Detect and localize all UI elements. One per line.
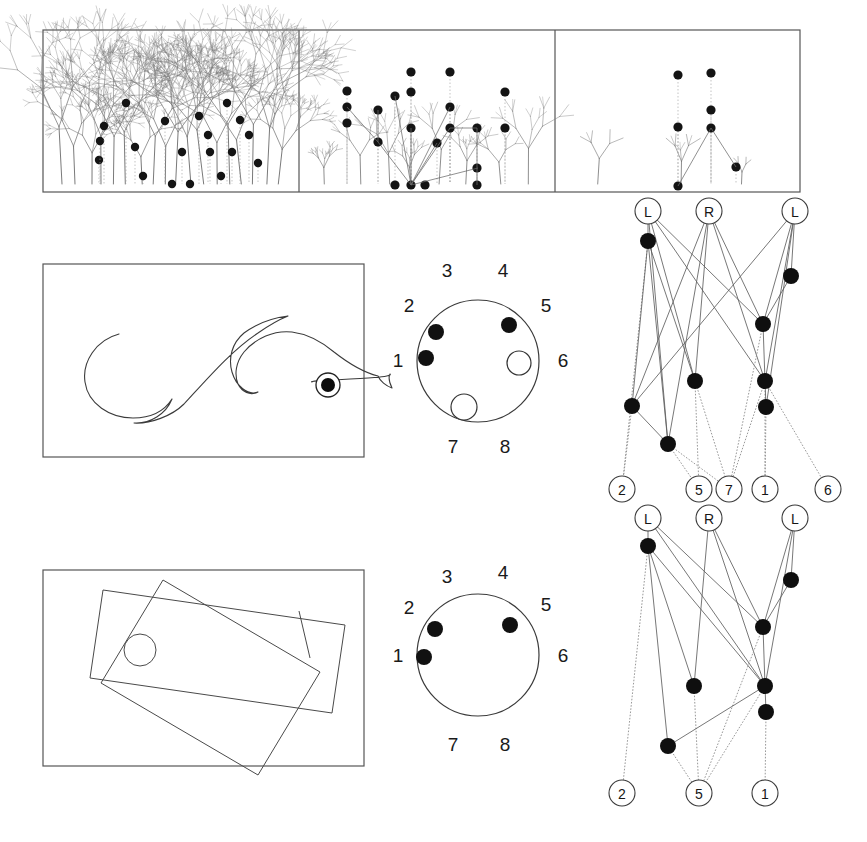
tree-branch	[324, 168, 325, 185]
sensor-top-label-2: 2	[404, 295, 415, 316]
tree-node-dot	[204, 131, 212, 139]
tree-node-dot	[245, 131, 253, 139]
tree-node-dot	[217, 172, 225, 180]
sensor-bottom-dot-filled	[416, 649, 432, 665]
net-top-hidden-node	[660, 436, 676, 452]
net-bottom-top-label-L: L	[644, 511, 652, 527]
net-top-hidden-node	[755, 316, 771, 332]
tree-branch	[113, 136, 114, 184]
net-top-top-label-L: L	[644, 204, 652, 220]
net-bottom-top-label-L: L	[791, 511, 799, 527]
net-bottom-hidden-node	[757, 678, 773, 694]
net-top-hidden-node	[757, 373, 773, 389]
sensor-top-dot-filled	[428, 324, 444, 340]
tree-node-dot	[96, 137, 104, 145]
tree-node-dot	[206, 148, 214, 156]
net-top-hidden-node	[640, 233, 656, 249]
tree-node-dot	[228, 148, 236, 156]
tree-node-dot	[390, 180, 399, 189]
tree-node-dot	[168, 180, 176, 188]
net-top-bottom-label-1: 1	[761, 482, 769, 498]
tree-node-dot	[342, 86, 351, 95]
sensor-top-label-3: 3	[442, 260, 453, 281]
net-top-hidden-node	[624, 398, 640, 414]
sensor-bottom-label-3: 3	[442, 566, 453, 587]
sensor-top-label-5: 5	[541, 295, 552, 316]
net-bottom-hidden-node	[640, 538, 656, 554]
sensor-top-label-8: 8	[500, 436, 511, 457]
tree-node-dot	[706, 68, 715, 77]
tree-node-dot	[342, 118, 351, 127]
sensor-top-label-1: 1	[393, 350, 404, 371]
net-top-bottom-label-7: 7	[725, 482, 733, 498]
tree-node-dot	[95, 156, 103, 164]
tree-node-dot	[186, 180, 194, 188]
sensor-top-label-7: 7	[448, 436, 459, 457]
net-bottom-bottom-label-2: 2	[618, 786, 626, 802]
tree-node-dot	[254, 159, 262, 167]
tree-node-dot	[406, 87, 415, 96]
sensor-top-label-6: 6	[558, 350, 569, 371]
tree-node-dot	[178, 148, 186, 156]
tree-node-dot	[673, 70, 682, 79]
tree-node-dot	[706, 105, 715, 114]
sensor-top-dot-open	[507, 351, 531, 375]
net-top-hidden-node	[783, 268, 799, 284]
sensor-bottom-dot-filled	[427, 621, 443, 637]
figure-canvas: 12345678 12345678 LRL25716 LRL251	[0, 0, 867, 842]
net-bottom-hidden-node	[758, 704, 774, 720]
target-core	[321, 378, 335, 392]
sensor-top-dot-filled	[418, 350, 434, 366]
tree-node-dot	[445, 67, 454, 76]
net-top-hidden-node	[758, 399, 774, 415]
sensor-top-dot-open	[451, 394, 477, 420]
tree-node-dot	[131, 143, 139, 151]
net-top-top-label-L: L	[791, 204, 799, 220]
net-bottom-hidden-node	[686, 678, 702, 694]
tree-branch	[742, 172, 743, 184]
net-top-bottom-label-5: 5	[695, 482, 703, 498]
sensor-top-label-4: 4	[498, 260, 509, 281]
tree-node-dot	[122, 99, 130, 107]
net-bottom-top-label-R: R	[704, 511, 714, 527]
figure-root: 12345678 12345678 LRL25716 LRL251	[0, 0, 867, 842]
tree-node-dot	[223, 99, 231, 107]
tree-node-dot	[673, 122, 682, 131]
sensor-bottom-label-7: 7	[448, 734, 459, 755]
sensor-bottom-label-5: 5	[541, 594, 552, 615]
tree-node-dot	[500, 123, 509, 132]
tree-node-dot	[161, 117, 169, 125]
tree-node-dot	[195, 112, 203, 120]
sensor-bottom-label-2: 2	[404, 597, 415, 618]
net-bottom-hidden-node	[660, 738, 676, 754]
sensor-bottom-dot-filled	[502, 617, 518, 633]
sensor-bottom-label-1: 1	[393, 645, 404, 666]
sensor-bottom-label-6: 6	[558, 645, 569, 666]
net-top-hidden-node	[687, 373, 703, 389]
net-bottom-hidden-node	[783, 572, 799, 588]
sensor-top-dot-filled	[501, 317, 517, 333]
tree-node-dot	[500, 87, 509, 96]
net-top-bottom-label-6: 6	[824, 482, 832, 498]
net-bottom-hidden-node	[755, 619, 771, 635]
tree-node-dot	[139, 172, 147, 180]
tree-node-dot	[406, 67, 415, 76]
tree-node-dot	[236, 116, 244, 124]
net-bottom-bottom-label-5: 5	[695, 786, 703, 802]
net-top-top-label-R: R	[704, 204, 714, 220]
tree-node-dot	[100, 122, 108, 130]
net-top-bottom-label-2: 2	[618, 482, 626, 498]
sensor-bottom-label-8: 8	[500, 734, 511, 755]
sensor-bottom-label-4: 4	[498, 562, 509, 583]
net-bottom-bottom-label-1: 1	[761, 786, 769, 802]
